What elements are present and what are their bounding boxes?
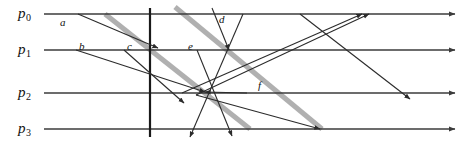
message-arrows-group bbox=[76, 8, 410, 137]
process-label-name: p bbox=[18, 41, 26, 57]
message-label-a: a bbox=[60, 17, 66, 28]
process-label-name: p bbox=[18, 120, 26, 136]
message-arrow-b bbox=[76, 50, 205, 92]
message-label-c: c bbox=[127, 41, 132, 52]
message-label-b: b bbox=[79, 41, 85, 52]
message-label-f: f bbox=[258, 80, 261, 91]
process-label-name: p bbox=[18, 84, 26, 100]
message-arrow-a bbox=[78, 14, 158, 48]
message-arrow-m10 bbox=[300, 14, 410, 99]
process-label-subscript: 2 bbox=[26, 91, 32, 102]
process-label-p1: p1 bbox=[18, 42, 31, 59]
process-label-subscript: 3 bbox=[26, 127, 32, 138]
message-arrow-m8 bbox=[182, 14, 362, 93]
message-arrow-c bbox=[124, 50, 184, 103]
process-label-subscript: 1 bbox=[26, 48, 32, 59]
process-label-p3: p3 bbox=[18, 121, 31, 138]
message-arrow-m9 bbox=[196, 14, 369, 95]
diagram-canvas bbox=[0, 0, 465, 144]
space-time-diagram: p0p1p2p3 abcdef bbox=[0, 0, 465, 144]
process-label-p2: p2 bbox=[18, 85, 31, 102]
process-label-subscript: 0 bbox=[26, 12, 32, 23]
message-label-d: d bbox=[219, 14, 225, 25]
process-label-p0: p0 bbox=[18, 6, 31, 23]
highlight-line-hl1 bbox=[105, 14, 250, 129]
highlight-line-hl2 bbox=[175, 7, 322, 129]
message-label-e: e bbox=[188, 41, 193, 52]
highlight-lines-group bbox=[105, 7, 322, 129]
process-label-name: p bbox=[18, 5, 26, 21]
